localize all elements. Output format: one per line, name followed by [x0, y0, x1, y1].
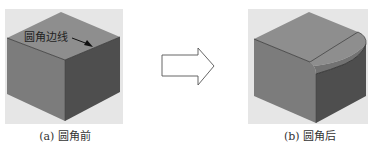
- figure-canvas: [0, 0, 373, 146]
- caption-b: (b) 圆角后: [284, 127, 336, 143]
- caption-a: (a) 圆角前: [39, 127, 91, 143]
- right-arrow-icon: [162, 48, 214, 85]
- cube-before-fillet: [5, 9, 123, 124]
- cube-after-fillet: [248, 9, 368, 124]
- fillet-edge-annotation: 圆角边线: [24, 28, 68, 44]
